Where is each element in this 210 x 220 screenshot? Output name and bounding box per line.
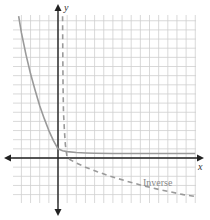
y-axis-up-arrow-icon bbox=[55, 4, 62, 11]
x-axis-left-arrow-icon bbox=[4, 155, 11, 162]
y-axis-down-arrow-icon bbox=[55, 209, 62, 216]
x-axis-label: x bbox=[198, 162, 202, 172]
inverse-label: Inverse bbox=[143, 178, 172, 188]
function-inverse-graph bbox=[0, 0, 210, 220]
y-axis-label: y bbox=[64, 3, 68, 13]
curves bbox=[19, 16, 196, 196]
inverse-curve bbox=[63, 16, 196, 196]
